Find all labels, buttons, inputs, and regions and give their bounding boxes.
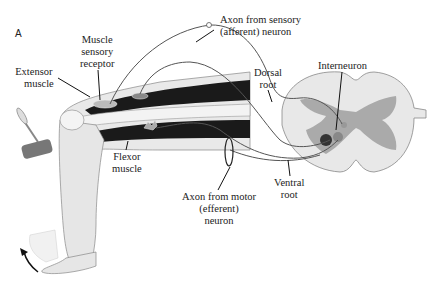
label-line: root [274, 189, 304, 201]
label-line: neuron [182, 215, 256, 227]
label-muscle-sensory-receptor: Muscle sensory receptor [80, 34, 114, 70]
label-line: muscle [112, 163, 142, 175]
label-interneuron: Interneuron [318, 60, 367, 72]
label-axon-motor-neuron: Axon from motor (efferent) neuron [182, 191, 256, 227]
label-flexor-muscle: Flexor muscle [112, 151, 142, 175]
dorsal-root-ganglion [207, 23, 212, 28]
label-line: (efferent) [182, 203, 256, 215]
label-extensor-muscle: Extensor muscle [14, 66, 54, 90]
label-line: Axon from sensory [220, 14, 301, 26]
spinal-cord-cross-section [282, 72, 426, 172]
panel-label: A [15, 28, 22, 39]
label-line: root [254, 79, 282, 91]
stretch-reflex-diagram [0, 0, 428, 282]
muscle-sensory-receptor-shape [93, 100, 117, 108]
motor-neuron-cell-body [320, 134, 332, 146]
label-line: Flexor [112, 151, 142, 163]
label-dorsal-root: Dorsal root [254, 67, 282, 91]
label-line: sensory [80, 46, 114, 58]
label-line: muscle [14, 78, 54, 90]
label-line: (afferent) neuron [220, 26, 301, 38]
label-line: Axon from motor [182, 191, 256, 203]
label-line: receptor [80, 58, 114, 70]
label-ventral-root: Ventral root [274, 177, 304, 201]
label-axon-sensory-neuron: Axon from sensory (afferent) neuron [220, 14, 301, 38]
label-line: Dorsal [254, 67, 282, 79]
reflex-hammer-icon [15, 107, 53, 160]
label-line: Muscle [80, 34, 114, 46]
label-line: Extensor [14, 66, 54, 78]
label-line: Ventral [274, 177, 304, 189]
